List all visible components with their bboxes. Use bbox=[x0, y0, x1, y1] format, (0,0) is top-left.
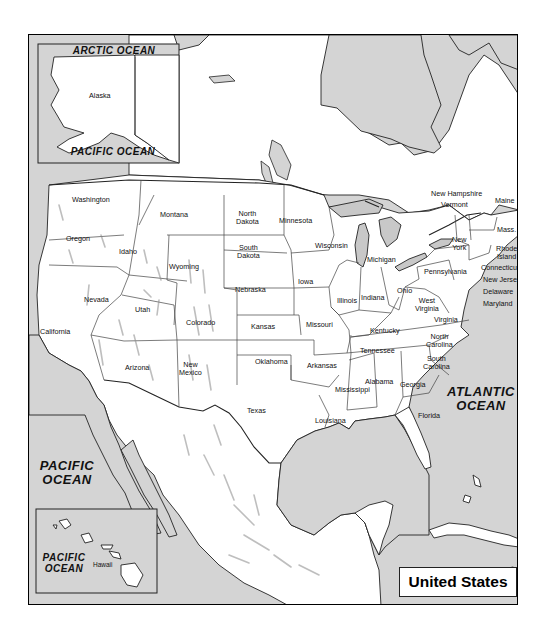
label-north-carolina: North Carolina bbox=[426, 333, 453, 349]
label-west-virginia: West Virginia bbox=[415, 297, 439, 313]
ocean-label-line: PACIFIC bbox=[37, 459, 97, 473]
label-kentucky: Kentucky bbox=[370, 327, 400, 335]
label-vermont: Vermont bbox=[441, 201, 468, 209]
label-maryland: Maryland bbox=[483, 300, 513, 308]
ocean-label-line: OCEAN bbox=[441, 399, 518, 413]
label-south-carolina: South Carolina bbox=[423, 355, 450, 371]
label-pennsylvania: Pennsylvania bbox=[424, 268, 467, 276]
label-minnesota: Minnesota bbox=[279, 217, 312, 225]
label-montana: Montana bbox=[160, 211, 188, 219]
label-rhode-island: Rhode Island bbox=[496, 245, 517, 261]
label-line: Dakota bbox=[236, 218, 259, 226]
label-iowa: Iowa bbox=[298, 278, 313, 286]
map-frame: ARCTIC OCEAN PACIFIC OCEAN PACIFIC OCEAN… bbox=[28, 34, 518, 605]
label-illinois: Illinois bbox=[337, 297, 357, 305]
label-south-dakota: South Dakota bbox=[237, 244, 260, 260]
ocean-label-atlantic: ATLANTIC OCEAN bbox=[441, 385, 518, 412]
label-arkansas: Arkansas bbox=[307, 362, 337, 370]
label-louisiana: Louisiana bbox=[315, 417, 346, 425]
label-hawaii: Hawaii bbox=[93, 561, 113, 569]
ocean-label-arctic: ARCTIC OCEAN bbox=[59, 46, 169, 57]
label-connecticut: Connecticut bbox=[481, 264, 518, 272]
label-oregon: Oregon bbox=[66, 235, 90, 243]
label-ohio: Ohio bbox=[397, 287, 412, 295]
label-nevada: Nevada bbox=[84, 296, 109, 304]
label-colorado: Colorado bbox=[186, 319, 215, 327]
label-line: York bbox=[452, 244, 466, 252]
label-north-dakota: North Dakota bbox=[236, 210, 259, 226]
hawaii-inset bbox=[36, 509, 157, 593]
label-line: Mexico bbox=[179, 369, 202, 377]
label-texas: Texas bbox=[247, 407, 266, 415]
label-idaho: Idaho bbox=[119, 248, 137, 256]
label-mississippi: Mississippi bbox=[335, 386, 370, 394]
ocean-label-line: PACIFIC bbox=[39, 553, 89, 564]
label-line: Carolina bbox=[423, 363, 450, 371]
label-oklahoma: Oklahoma bbox=[255, 358, 288, 366]
label-new-hampshire: New Hampshire bbox=[431, 190, 482, 198]
label-line: Island bbox=[496, 253, 517, 261]
label-line: Carolina bbox=[426, 341, 453, 349]
label-washington: Washington bbox=[72, 196, 110, 204]
ocean-label-line: ATLANTIC bbox=[441, 385, 518, 399]
label-wisconsin: Wisconsin bbox=[315, 242, 348, 250]
label-indiana: Indiana bbox=[361, 294, 385, 302]
label-maine: Maine bbox=[495, 197, 515, 205]
label-missouri: Missouri bbox=[306, 321, 333, 329]
label-delaware: Delaware bbox=[483, 288, 513, 296]
label-nebraska: Nebraska bbox=[235, 286, 266, 294]
label-massachusetts: Mass. bbox=[497, 226, 516, 234]
label-utah: Utah bbox=[135, 306, 150, 314]
ocean-label-pacific-hawaii: PACIFIC OCEAN bbox=[39, 553, 89, 574]
ocean-label-line: OCEAN bbox=[37, 473, 97, 487]
ocean-label-line: OCEAN bbox=[39, 564, 89, 575]
label-florida: Florida bbox=[418, 412, 440, 420]
label-line: Virginia bbox=[415, 305, 439, 313]
label-wyoming: Wyoming bbox=[169, 263, 199, 271]
label-michigan: Michigan bbox=[367, 256, 396, 264]
label-alaska: Alaska bbox=[89, 92, 111, 100]
label-tennessee: Tennessee bbox=[360, 347, 395, 355]
label-kansas: Kansas bbox=[251, 323, 275, 331]
ocean-label-pacific-main: PACIFIC OCEAN bbox=[37, 459, 97, 486]
label-california: California bbox=[40, 328, 70, 336]
label-arizona: Arizona bbox=[125, 364, 149, 372]
ocean-label-pacific-alaska: PACIFIC OCEAN bbox=[54, 147, 172, 158]
map-title: United States bbox=[399, 567, 517, 597]
label-line: Dakota bbox=[237, 252, 260, 260]
label-new-york: New York bbox=[452, 236, 466, 252]
label-virginia: Virginia bbox=[434, 316, 458, 324]
label-georgia: Georgia bbox=[400, 381, 426, 389]
label-new-mexico: New Mexico bbox=[179, 361, 202, 377]
label-alabama: Alabama bbox=[365, 378, 393, 386]
label-new-jersey: New Jersey bbox=[483, 276, 518, 284]
